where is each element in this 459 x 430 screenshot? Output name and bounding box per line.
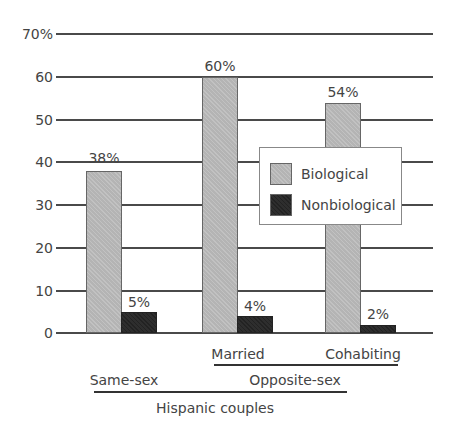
y-tick-10: 10 — [3, 283, 53, 299]
legend-label-biological: Biological — [301, 166, 368, 182]
y-tick-20: 20 — [3, 240, 53, 256]
value-label-same-sex-biological: 38% — [74, 150, 134, 166]
legend-swatch-biological — [270, 163, 292, 185]
gridline-50 — [56, 119, 433, 121]
bar-married-biological — [202, 77, 238, 333]
value-label-married-nonbiological: 4% — [225, 298, 285, 314]
category-label-married: Married — [200, 346, 276, 362]
y-tick-70: 70% — [3, 26, 53, 42]
bar-married-nonbiological — [237, 316, 273, 333]
legend: Biological Nonbiological — [259, 147, 402, 225]
legend-label-nonbiological: Nonbiological — [301, 197, 396, 213]
opposite-sex-bracket-line — [214, 364, 398, 366]
y-tick-50: 50 — [3, 112, 53, 128]
gridline-70 — [56, 33, 433, 35]
value-label-cohabiting-biological: 54% — [313, 84, 373, 100]
legend-swatch-nonbiological — [270, 194, 292, 216]
y-tick-30: 30 — [3, 197, 53, 213]
x-axis-title: Hispanic couples — [150, 400, 280, 416]
bar-cohabiting-nonbiological — [360, 325, 396, 333]
y-tick-40: 40 — [3, 154, 53, 170]
bar-same-sex-nonbiological — [121, 312, 157, 333]
gridline-60 — [56, 76, 433, 78]
category-label-cohabiting: Cohabiting — [318, 346, 408, 362]
y-tick-60: 60 — [3, 69, 53, 85]
value-label-married-biological: 60% — [190, 58, 250, 74]
hispanic-couples-bracket-line — [94, 391, 347, 393]
group-label-opposite-sex: Opposite-sex — [240, 372, 350, 388]
category-label-same-sex: Same-sex — [86, 372, 162, 388]
y-tick-0: 0 — [3, 325, 53, 341]
value-label-same-sex-nonbiological: 5% — [109, 294, 169, 310]
value-label-cohabiting-nonbiological: 2% — [348, 306, 408, 322]
